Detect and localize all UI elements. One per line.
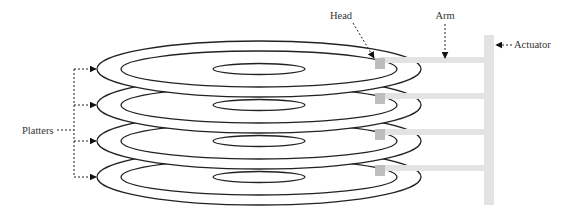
head-1 [375, 58, 385, 69]
platter-1 [97, 41, 421, 97]
platters-label: Platters [22, 125, 54, 136]
arm-1 [380, 57, 486, 63]
head-4 [375, 165, 385, 176]
arm-2 [380, 93, 486, 99]
head-3 [375, 129, 385, 140]
actuator-label: Actuator [514, 39, 551, 50]
head-2 [375, 93, 385, 104]
hdd-diagram: Head Arm Actuator Platters [0, 0, 569, 215]
arm-3 [380, 129, 486, 135]
arm-4 [380, 165, 486, 171]
arm-label: Arm [435, 10, 454, 21]
head-label: Head [330, 10, 353, 21]
